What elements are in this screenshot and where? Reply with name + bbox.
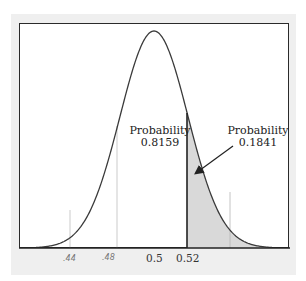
right-probability-value: 0.1841 bbox=[218, 137, 298, 149]
handwritten-tick-48: .48 bbox=[102, 253, 115, 262]
tick-label-mean: 0.5 bbox=[146, 252, 163, 264]
right-probability-label: Probability 0.1841 bbox=[218, 125, 298, 149]
tick-label-cutoff: 0.52 bbox=[176, 252, 199, 264]
left-probability-value: 0.8159 bbox=[120, 137, 200, 149]
left-probability-label: Probability 0.8159 bbox=[120, 125, 200, 149]
arrow-icon bbox=[196, 146, 233, 173]
handwritten-tick-44: .44 bbox=[63, 254, 76, 263]
